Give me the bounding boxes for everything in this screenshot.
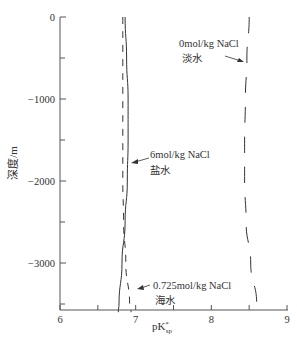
y-tick-label: −3000 xyxy=(28,258,55,269)
annotation-seawater-line1: 0.725mol/kg NaCl xyxy=(153,280,231,291)
x-axis-title: pK*sp xyxy=(152,320,173,335)
x-tick-label: 8 xyxy=(209,314,214,325)
y-tick-label: −2000 xyxy=(28,176,55,187)
series-line-0 xyxy=(245,17,259,312)
annotation-fresh-water: 0mol/kg NaCl 淡水 xyxy=(179,38,244,64)
annotation-fresh-water-line2: 淡水 xyxy=(182,53,203,64)
axes xyxy=(60,17,288,310)
x-tick-label: 9 xyxy=(284,314,289,325)
annotation-brine: 6mol/kg NaCl 盐水 xyxy=(131,149,210,176)
y-tick-label: −1000 xyxy=(28,94,55,105)
arrow-head-icon xyxy=(131,159,138,164)
y-tick-label: 0 xyxy=(50,12,55,23)
chart: 0−1000−2000−3000 6789 深度/m pK*sp 0mol/kg… xyxy=(0,0,297,340)
annotation-seawater-line2: 海水 xyxy=(155,294,176,306)
annotation-seawater: 0.725mol/kg NaCl 海水 xyxy=(137,280,231,306)
annotation-fresh-water-line1: 0mol/kg NaCl xyxy=(179,38,239,49)
y-ticks xyxy=(60,17,66,304)
x-tick-labels: 6789 xyxy=(57,314,289,325)
annotation-brine-line1: 6mol/kg NaCl xyxy=(150,149,210,160)
x-tick-label: 7 xyxy=(133,314,138,325)
annotation-brine-line2: 盐水 xyxy=(150,164,171,176)
y-axis-title: 深度/m xyxy=(6,146,19,180)
arrow-head-icon xyxy=(237,58,244,62)
arrow-head-icon xyxy=(137,285,144,290)
y-tick-labels: 0−1000−2000−3000 xyxy=(28,12,55,269)
x-tick-label: 6 xyxy=(57,314,62,325)
